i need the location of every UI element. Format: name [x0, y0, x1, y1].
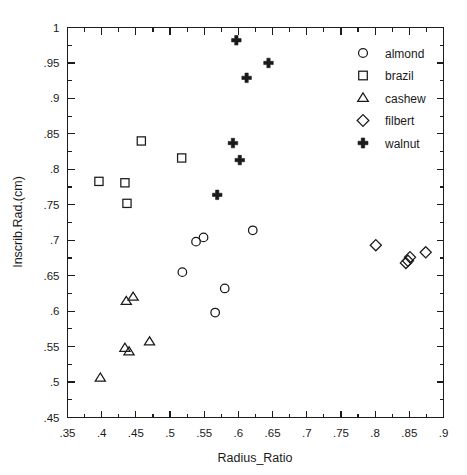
legend-label-walnut: walnut: [384, 137, 420, 151]
data-point-brazil: [121, 179, 129, 187]
x-tick-label: .85: [401, 427, 417, 439]
x-tick-label: .9: [439, 427, 449, 439]
axes: [68, 28, 444, 418]
data-point-walnut: [212, 190, 222, 200]
series-cashew: [95, 292, 154, 381]
data-point-brazil: [137, 137, 145, 145]
x-axis-title: Radius_Ratio: [217, 451, 292, 465]
data-point-almond: [211, 308, 220, 317]
data-point-walnut: [264, 58, 274, 68]
legend-marker-filbert: [357, 115, 369, 127]
x-tick-label: .7: [302, 427, 312, 439]
x-tick-label: .6: [234, 427, 244, 439]
series-walnut: [212, 36, 273, 200]
data-point-filbert: [370, 240, 381, 251]
data-point-walnut: [235, 155, 245, 165]
tick-marks: [68, 28, 444, 418]
y-tick-label: .85: [44, 128, 60, 140]
data-point-almond: [178, 268, 187, 277]
y-tick-label: .9: [50, 92, 60, 104]
data-point-walnut: [242, 73, 252, 83]
plot-canvas: .35.4.45.5.55.6.65.7.75.8.85.9 .45.5.55.…: [0, 0, 467, 475]
x-tick-labels: .35.4.45.5.55.6.65.7.75.8.85.9: [60, 427, 449, 439]
y-tick-label: .95: [44, 57, 60, 69]
y-tick-label: .75: [44, 199, 60, 211]
data-point-almond: [249, 226, 258, 235]
legend-marker-almond: [359, 49, 368, 58]
legend-label-cashew: cashew: [385, 92, 426, 106]
legend-marker-walnut: [358, 138, 368, 148]
data-points: [95, 36, 431, 382]
y-tick-label: .65: [44, 270, 60, 282]
data-point-almond: [220, 284, 229, 293]
y-tick-label: .55: [44, 341, 60, 353]
legend-marker-brazil: [359, 71, 368, 80]
series-filbert: [370, 240, 431, 269]
y-tick-label: .8: [50, 163, 60, 175]
x-tick-label: .45: [128, 427, 144, 439]
series-almond: [178, 226, 257, 317]
y-tick-label: .45: [44, 412, 60, 424]
legend: almondbrazilcashewfilbertwalnut: [357, 47, 426, 151]
data-point-almond: [199, 233, 208, 242]
axis-frame: [68, 28, 444, 418]
y-tick-label: .5: [50, 376, 60, 388]
x-tick-label: .8: [370, 427, 380, 439]
y-tick-label: .7: [50, 234, 60, 246]
x-tick-label: .75: [333, 427, 349, 439]
x-tick-label: .5: [165, 427, 175, 439]
legend-label-brazil: brazil: [385, 69, 414, 83]
data-point-walnut: [228, 138, 238, 148]
legend-label-almond: almond: [385, 47, 424, 61]
x-tick-label: .65: [265, 427, 281, 439]
data-point-cashew: [144, 337, 154, 345]
x-tick-label: .35: [60, 427, 76, 439]
x-tick-label: .55: [196, 427, 212, 439]
series-brazil: [95, 137, 186, 208]
y-tick-labels: .45.5.55.6.65.7.75.8.85.9.951: [44, 22, 60, 424]
scatter-plot-figure: .35.4.45.5.55.6.65.7.75.8.85.9 .45.5.55.…: [0, 0, 467, 475]
data-point-filbert: [420, 247, 431, 258]
data-point-walnut: [232, 36, 242, 46]
y-tick-label: 1: [53, 22, 59, 34]
data-point-cashew: [95, 373, 105, 381]
data-point-brazil: [95, 177, 103, 185]
data-point-brazil: [123, 199, 131, 207]
y-axis-title: Inscrib.Rad.(cm): [11, 176, 25, 268]
legend-marker-cashew: [358, 93, 369, 101]
data-point-cashew: [128, 292, 138, 300]
y-tick-label: .6: [50, 305, 60, 317]
data-point-brazil: [178, 154, 186, 162]
legend-label-filbert: filbert: [385, 114, 415, 128]
x-tick-label: .4: [97, 427, 107, 439]
